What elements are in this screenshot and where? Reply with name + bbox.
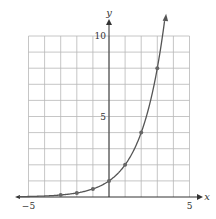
axis-labels: −55510xy: [22, 7, 210, 211]
x-tick-label: 5: [187, 201, 193, 211]
y-axis-label: y: [105, 7, 112, 18]
x-axis-label: x: [204, 191, 210, 202]
y-tick-label: 5: [100, 112, 106, 122]
data-point: [59, 193, 63, 197]
exponential-curve: [19, 21, 165, 197]
data-point: [75, 191, 79, 195]
exponential-chart: −55510xy: [0, 0, 216, 219]
x-tick-label: −5: [22, 201, 36, 211]
axes: [15, 19, 203, 200]
data-point: [139, 131, 143, 135]
x-axis-arrow-icon: [197, 194, 203, 200]
data-point: [107, 179, 111, 183]
y-axis-arrow-icon: [106, 19, 112, 25]
data-point: [155, 66, 159, 70]
curve: [19, 14, 168, 197]
curve-arrow-icon: [163, 14, 169, 22]
data-point: [123, 163, 127, 167]
data-point: [91, 187, 95, 191]
y-tick-label: 10: [95, 31, 107, 41]
